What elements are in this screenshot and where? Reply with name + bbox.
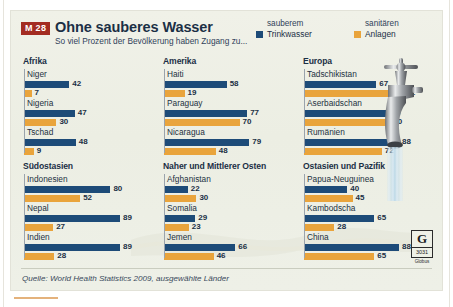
bar-sanitation xyxy=(24,119,56,126)
country-group: Nepal8927 xyxy=(24,203,152,231)
bar-sanitation xyxy=(164,90,185,97)
region-grid: AfrikaNiger427Nigeria4730Tschad489Amerik… xyxy=(21,56,433,266)
globus-logo-letter: G xyxy=(417,231,427,247)
bar-sanitation xyxy=(304,90,403,97)
country-group: Kambodscha6528 xyxy=(304,203,432,231)
bar-row-sanitation: 28 xyxy=(24,252,152,260)
bar-sanitation xyxy=(24,195,80,202)
source-divider xyxy=(21,268,432,269)
legend-sanitation-label: Anlagen xyxy=(365,29,396,40)
bar-sanitation xyxy=(304,195,353,202)
bar-row-water: 47 xyxy=(24,109,152,117)
country-group: Aserbaidschan7880 xyxy=(304,98,432,126)
bar-water xyxy=(24,110,75,117)
bar-value-water: 47 xyxy=(78,109,87,117)
country-group: Indonesien8052 xyxy=(24,174,152,202)
bar-water xyxy=(164,110,247,117)
bar-water xyxy=(24,81,69,88)
bar-row-water: 89 xyxy=(24,243,152,251)
bar-row-sanitation: 92 xyxy=(304,89,432,97)
bar-value-sanitation: 52 xyxy=(83,194,92,202)
country-label: Indien xyxy=(24,232,152,242)
bar-value-sanitation: 72 xyxy=(385,147,394,155)
bar-value-water: 88 xyxy=(402,138,411,146)
region-block: SüdostasienIndonesien8052Nepal8927Indien… xyxy=(21,161,152,266)
country-label: Nepal xyxy=(24,203,152,213)
bar-value-water: 48 xyxy=(79,138,88,146)
bar-value-water: 77 xyxy=(250,109,259,117)
country-group: Niger427 xyxy=(24,69,152,97)
globus-logo-caption: Globus xyxy=(411,259,433,264)
bar-row-water: 58 xyxy=(164,80,292,88)
bar-sanitation xyxy=(304,253,374,260)
bar-row-sanitation: 9 xyxy=(24,147,152,155)
bar-row-sanitation: 80 xyxy=(304,118,432,126)
country-group: Somalia2923 xyxy=(164,203,292,231)
bar-water xyxy=(164,244,235,251)
country-group: Jemen6646 xyxy=(164,232,292,260)
country-label: Tschad xyxy=(24,127,152,137)
bar-water xyxy=(24,186,110,193)
country-label: Afghanistan xyxy=(164,174,292,184)
bar-row-sanitation: 52 xyxy=(24,194,152,202)
bar-value-sanitation: 92 xyxy=(406,89,415,97)
bar-sanitation xyxy=(164,253,214,260)
country-label: Somalia xyxy=(164,203,292,213)
region-title: Ostasien und Pazifik xyxy=(303,161,432,171)
country-group: Paraguay7770 xyxy=(164,98,292,126)
bar-water xyxy=(304,110,388,117)
bar-row-water: 88 xyxy=(304,138,432,146)
region-block: EuropaTadschikistan6792Aserbaidschan7880… xyxy=(301,56,432,161)
bar-value-water: 29 xyxy=(198,214,207,222)
region-rows: Tadschikistan6792Aserbaidschan7880Rumäni… xyxy=(301,69,432,155)
bar-sanitation xyxy=(164,119,240,126)
legend: sauberem Trinkwasser sanitären Anlagen xyxy=(256,19,432,40)
bar-value-water: 89 xyxy=(123,214,132,222)
bar-value-sanitation: 48 xyxy=(219,147,228,155)
region-title: Naher und Mittlerer Osten xyxy=(163,161,292,171)
country-label: Niger xyxy=(24,69,152,79)
country-label: Nicaragua xyxy=(164,127,292,137)
bar-value-water: 42 xyxy=(72,80,81,88)
bar-value-water: 67 xyxy=(379,80,388,88)
region-rows: Niger427Nigeria4730Tschad489 xyxy=(21,69,152,155)
bar-sanitation xyxy=(304,148,382,155)
bar-water xyxy=(164,81,227,88)
bar-row-water: 89 xyxy=(24,214,152,222)
region-block: Naher und Mittlerer OstenAfghanistan2230… xyxy=(161,161,292,266)
bar-value-sanitation: 45 xyxy=(356,194,365,202)
bar-value-sanitation: 46 xyxy=(217,252,226,260)
country-group: Afghanistan2230 xyxy=(164,174,292,202)
bar-water xyxy=(164,215,195,222)
bar-water xyxy=(304,81,376,88)
bar-row-sanitation: 48 xyxy=(164,147,292,155)
bar-value-sanitation: 28 xyxy=(337,223,346,231)
bar-row-sanitation: 30 xyxy=(164,194,292,202)
legend-swatch-water-icon xyxy=(256,31,263,38)
region-title: Amerika xyxy=(163,56,292,66)
globus-logo-box: G 3031 xyxy=(411,230,433,258)
country-label: Jemen xyxy=(164,232,292,242)
bar-row-water: 79 xyxy=(164,138,292,146)
legend-sanitation-bottom: Anlagen xyxy=(354,29,432,40)
bar-row-water: 48 xyxy=(24,138,152,146)
legend-item-sanitation: sanitären Anlagen xyxy=(354,19,432,40)
bar-water xyxy=(24,139,76,146)
bar-water xyxy=(164,186,188,193)
bar-row-sanitation: 46 xyxy=(164,252,292,260)
country-label: Indonesien xyxy=(24,174,152,184)
bar-value-water: 78 xyxy=(391,109,400,117)
bottom-orange-rule xyxy=(14,297,58,299)
country-label: Haiti xyxy=(164,69,292,79)
bar-row-water: 67 xyxy=(304,80,432,88)
bar-row-sanitation: 27 xyxy=(24,223,152,231)
region-title: Afrika xyxy=(23,56,152,66)
bar-sanitation xyxy=(164,148,216,155)
bar-value-water: 88 xyxy=(402,243,411,251)
bar-value-sanitation: 30 xyxy=(59,118,68,126)
region-title: Südostasien xyxy=(23,161,152,171)
region-block: AfrikaNiger427Nigeria4730Tschad489 xyxy=(21,56,152,161)
bar-value-sanitation: 19 xyxy=(188,89,197,97)
bar-water xyxy=(24,244,120,251)
bar-value-sanitation: 65 xyxy=(377,252,386,260)
